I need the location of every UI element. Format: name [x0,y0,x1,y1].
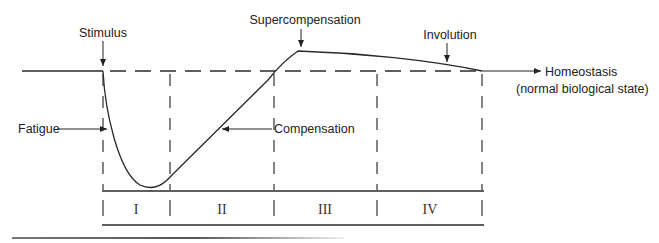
homeostasis-sublabel: (normal biological state) [516,82,649,96]
phase-label-4: IV [423,202,438,217]
phase-label-3: III [318,202,332,217]
phase-label-2: II [217,202,227,217]
fatigue-label: Fatigue [18,122,60,136]
supercompensation-diagram: I II III IV Stimulus Supercompensation I… [0,0,659,243]
bottom-rule [12,237,344,239]
stimulus-label: Stimulus [79,26,127,40]
involution-label: Involution [423,28,477,42]
phase-label-1: I [134,202,139,217]
homeostasis-label: Homeostasis [545,65,617,79]
compensation-label: Compensation [274,122,355,136]
supercompensation-label: Supercompensation [249,13,360,27]
